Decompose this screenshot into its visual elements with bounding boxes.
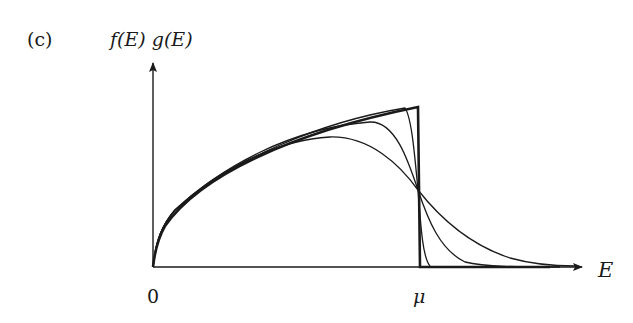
y-axis-label: f(E) g(E) — [110, 30, 193, 49]
x-axis-label: E — [598, 260, 613, 281]
mu-tick-label: μ — [413, 287, 425, 306]
curve-zero-temperature — [153, 107, 550, 267]
curve-high-temperature — [153, 137, 575, 267]
curve-low-temperature — [153, 108, 430, 267]
origin-tick-label: 0 — [147, 287, 159, 306]
panel-label: (c) — [27, 30, 52, 49]
curve-medium-temperature — [153, 122, 560, 267]
fermi-distribution-diagram — [0, 0, 633, 323]
